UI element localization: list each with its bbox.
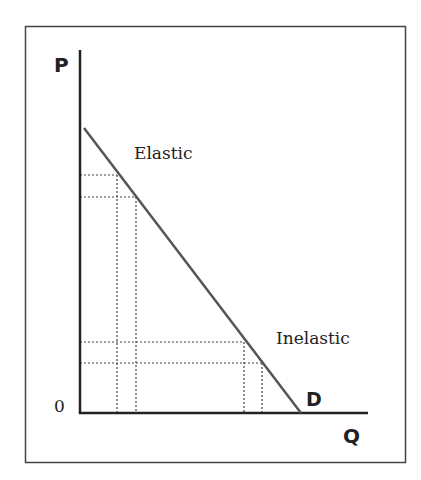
origin-label: 0: [54, 396, 65, 416]
x-axis-label: Q: [343, 424, 360, 448]
elastic-guides: [80, 175, 136, 413]
elastic-label: Elastic: [134, 143, 193, 163]
demand-label: D: [306, 388, 322, 410]
inelastic-guides: [80, 342, 262, 413]
y-axis-label: P: [54, 53, 69, 77]
outer-frame: [26, 27, 406, 463]
demand-elasticity-diagram: P Q 0 D Elastic Inelastic: [0, 0, 421, 480]
demand-curve: [84, 128, 301, 413]
inelastic-label: Inelastic: [276, 328, 350, 348]
